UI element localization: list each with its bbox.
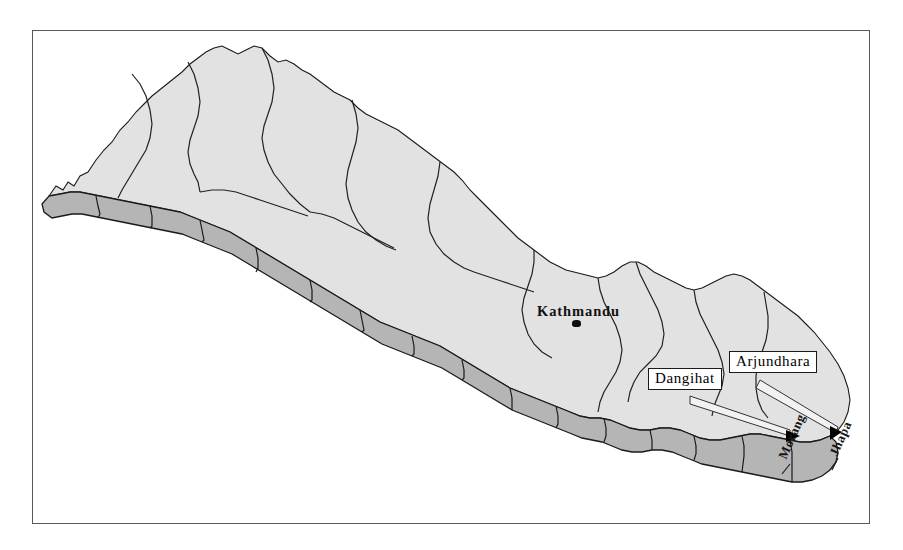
hill-mountain-regions — [49, 46, 850, 442]
callout-box-dangihat: Dangihat — [648, 368, 722, 390]
map-figure: Kathmandu Dangihat Arjundhara Morang Jha… — [0, 0, 903, 550]
label-kathmandu: Kathmandu — [537, 303, 620, 320]
callout-box-arjundhara: Arjundhara — [729, 351, 817, 373]
capital-dot-icon — [572, 320, 581, 327]
nepal-hills-outline — [49, 46, 850, 442]
nepal-map-graphic — [0, 0, 903, 550]
